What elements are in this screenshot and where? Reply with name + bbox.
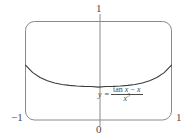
curve-equation-annotation: y = tan x − x x3 — [98, 86, 143, 103]
curve-path — [26, 65, 172, 87]
y-axis-max-label: 1 — [96, 3, 102, 14]
numerator-minus-sign: − — [130, 85, 135, 94]
equation-equals-sign: = — [103, 91, 112, 99]
plot-canvas — [0, 0, 189, 140]
equation-fraction: tan x − x x3 — [111, 86, 142, 103]
numerator-second-term: x — [137, 85, 141, 94]
origin-label: 0 — [96, 124, 102, 135]
x-axis-min-label: −1 — [11, 112, 23, 123]
numerator-tan-function: tan — [113, 85, 123, 94]
fraction-denominator: x3 — [122, 95, 133, 103]
plot-frame — [26, 22, 172, 121]
x-axis-max-label: 1 — [176, 112, 182, 123]
graph-figure: 1 0 −1 1 y = tan x − x x3 — [0, 0, 189, 140]
denominator-exponent: 3 — [127, 92, 130, 98]
